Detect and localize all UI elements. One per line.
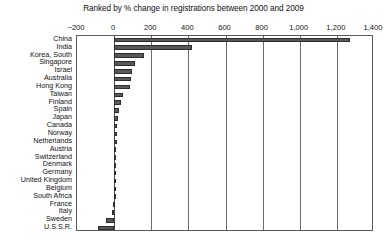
x-axis-tick-label: 0 <box>111 23 115 32</box>
bar <box>106 218 114 223</box>
x-axis-tick-label: 1,400 <box>363 23 382 32</box>
bar <box>114 140 117 145</box>
bar-row <box>77 130 372 138</box>
x-axis-tick-label: 1,200 <box>326 23 345 32</box>
bar <box>114 38 350 43</box>
x-axis-tick-label: 800 <box>255 23 268 32</box>
bar <box>114 93 123 98</box>
bar-row <box>77 114 372 122</box>
bar <box>114 116 118 121</box>
bar <box>114 53 144 58</box>
x-axis-tick-label: 200 <box>144 23 157 32</box>
bar <box>114 85 130 90</box>
bar-row <box>77 185 372 193</box>
bar-row <box>77 208 372 216</box>
bar <box>114 61 135 66</box>
bar-row <box>77 169 372 177</box>
bar-row <box>77 44 372 52</box>
bar-row <box>77 60 372 68</box>
bar-row <box>77 201 372 209</box>
bar <box>114 155 116 160</box>
bar <box>113 202 115 207</box>
bar-chart: Ranked by % change in registrations betw… <box>0 0 387 241</box>
bar <box>114 194 116 199</box>
chart-title: Ranked by % change in registrations betw… <box>0 4 387 13</box>
bar-row <box>77 193 372 201</box>
bar-row <box>77 91 372 99</box>
bar <box>114 147 116 152</box>
x-axis-tick-label: 600 <box>218 23 231 32</box>
bar <box>114 45 192 50</box>
bar <box>114 108 119 113</box>
bars <box>77 36 372 230</box>
x-axis-tick-label: −200 <box>67 23 84 32</box>
x-axis-tick-label: 400 <box>181 23 194 32</box>
bar <box>114 163 116 168</box>
bar-row <box>77 107 372 115</box>
bar-row <box>77 52 372 60</box>
bar-row <box>77 99 372 107</box>
bar <box>98 226 114 231</box>
y-axis-category-labels: ChinaIndiaKorea, SouthSingaporeIsraelAus… <box>0 35 74 231</box>
bar <box>112 210 114 215</box>
bar-row <box>77 83 372 91</box>
bar <box>114 179 116 184</box>
bar-row <box>77 146 372 154</box>
bar <box>114 171 116 176</box>
bar <box>114 69 132 74</box>
bar-row <box>77 138 372 146</box>
bar <box>114 77 131 82</box>
bar-row <box>77 67 372 75</box>
plot-area <box>76 35 373 231</box>
y-axis-category-label: U.S.S.R. <box>44 223 72 231</box>
bar-row <box>77 224 372 232</box>
bar <box>114 187 116 192</box>
x-axis-tick-label: 1,000 <box>289 23 308 32</box>
bar-row <box>77 177 372 185</box>
bar <box>114 132 117 137</box>
bar-row <box>77 161 372 169</box>
bar <box>114 100 121 105</box>
bar-row <box>77 36 372 44</box>
bar-row <box>77 154 372 162</box>
bar-row <box>77 75 372 83</box>
bar <box>114 124 117 129</box>
bar-row <box>77 122 372 130</box>
bar-row <box>77 216 372 224</box>
